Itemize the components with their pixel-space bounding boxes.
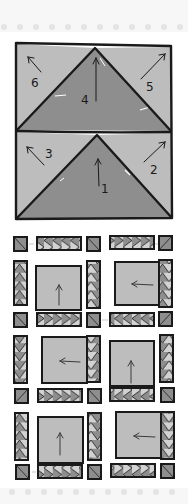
piece-label: 4 — [81, 93, 89, 107]
geese-unit-bottom — [16, 132, 172, 219]
sashing-row-3 — [15, 388, 174, 403]
quilt-diagram: 6 4 5 3 1 2 — [0, 0, 188, 504]
quilt-layout — [14, 236, 174, 479]
piece-label: 3 — [45, 147, 53, 161]
block — [116, 412, 161, 458]
sashing-row-2 — [14, 312, 172, 327]
block — [42, 337, 87, 383]
piece-label: 2 — [150, 163, 158, 177]
flying-geese-block: 6 4 5 3 1 2 — [16, 43, 172, 219]
bottom-perforation — [0, 488, 188, 496]
sashing-row-4 — [16, 464, 174, 479]
piece-label: 1 — [101, 182, 109, 196]
piece-label: 6 — [31, 76, 39, 90]
piece-label: 5 — [146, 80, 154, 94]
block — [115, 262, 159, 305]
sashing-row-1 — [14, 236, 172, 251]
